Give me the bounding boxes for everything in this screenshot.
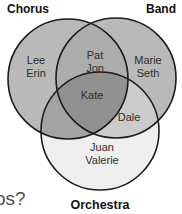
member-name-pat: Pat [87,49,104,61]
member-name-juan: Juan [90,141,114,153]
band-set-label: Band [146,2,176,16]
orchestra-set-label: Orchestra [70,198,130,212]
member-name-marie: Marie [134,54,162,66]
member-name-erin: Erin [26,67,46,79]
member-name-dale: Dale [118,111,141,123]
member-name-kate: Kate [81,89,104,101]
member-name-seth: Seth [137,67,160,79]
member-name-valerie: Valerie [85,154,118,166]
member-name-lee: Lee [27,54,45,66]
venn-diagram: Chorus Band Orchestra Lee Erin Pat Jon M… [0,0,182,214]
question-text-fragment: os? [0,188,26,209]
chorus-set-label: Chorus [7,2,49,16]
venn-diagram-page: Chorus Band Orchestra Lee Erin Pat Jon M… [0,0,182,214]
member-name-jon: Jon [86,62,104,74]
